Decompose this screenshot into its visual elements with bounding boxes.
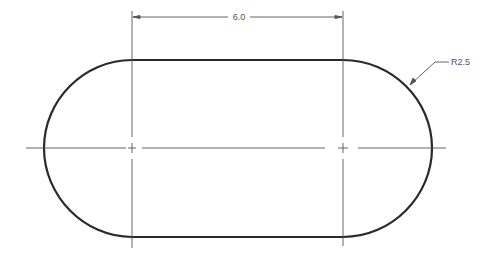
length-dimension-label: 6.0 — [233, 12, 246, 22]
radius-dimension-label: R2.5 — [451, 57, 470, 67]
slot-outline — [44, 60, 432, 237]
arrow-right-icon — [335, 16, 342, 19]
radius-leader — [410, 62, 449, 85]
slot-drawing: 6.0 R2.5 — [0, 0, 497, 258]
arrow-left-icon — [133, 16, 140, 19]
radius-arrow-icon — [410, 78, 416, 85]
